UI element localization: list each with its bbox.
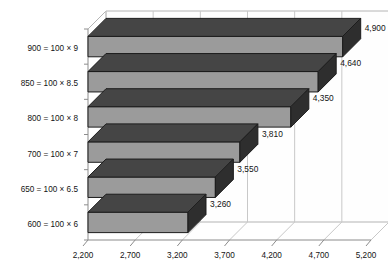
category-label: 850 = 100 × 8.5 <box>21 79 79 88</box>
bar-value-label: 4,350 <box>313 93 334 103</box>
x-tick-label: 4,200 <box>261 251 282 260</box>
category-label: 800 = 100 × 8 <box>27 114 78 123</box>
bar-value-label: 3,810 <box>262 129 283 139</box>
x-tick-label: 5,200 <box>356 251 377 260</box>
bar-value-label: 4,640 <box>340 58 361 68</box>
x-tick-label: 3,700 <box>214 251 235 260</box>
chart-canvas: 900 = 100 × 9850 = 100 × 8.5800 = 100 × … <box>0 0 388 273</box>
bar <box>88 124 258 162</box>
x-tick-label: 2,700 <box>120 251 141 260</box>
bar <box>88 18 361 56</box>
bar-chart: 900 = 100 × 9850 = 100 × 8.5800 = 100 × … <box>0 0 388 273</box>
x-tick-label: 2,200 <box>73 251 94 260</box>
bar-value-label: 4,900 <box>365 23 386 33</box>
x-tick-label: 4,700 <box>309 251 330 260</box>
bar-top-face <box>88 124 258 142</box>
bar <box>88 194 206 232</box>
bar-value-label: 3,260 <box>210 199 231 209</box>
bar-top-face <box>88 159 233 177</box>
category-label: 700 = 100 × 7 <box>27 150 78 159</box>
category-label: 600 = 100 × 6 <box>27 220 78 229</box>
bar <box>88 89 309 127</box>
bar-top-face <box>88 18 361 36</box>
bar <box>88 159 233 197</box>
bar <box>88 54 336 92</box>
bar-front-face <box>88 212 188 232</box>
x-tick-label: 3,200 <box>167 251 188 260</box>
bar-top-face <box>88 89 309 107</box>
bar-value-label: 3,550 <box>237 164 258 174</box>
bar-top-face <box>88 194 206 212</box>
category-label: 900 = 100 × 9 <box>27 44 78 53</box>
bar-top-face <box>88 54 336 72</box>
category-label: 650 = 100 × 6.5 <box>21 185 79 194</box>
